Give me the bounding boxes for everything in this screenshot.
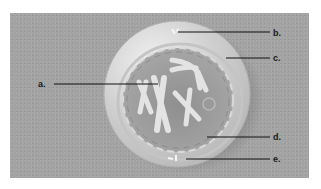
label-a: a. [38, 79, 46, 89]
label-e: e. [273, 154, 281, 164]
label-b: b. [273, 28, 281, 38]
nucleolus [203, 98, 215, 110]
label-c: c. [273, 53, 281, 63]
label-d: d. [273, 132, 281, 142]
